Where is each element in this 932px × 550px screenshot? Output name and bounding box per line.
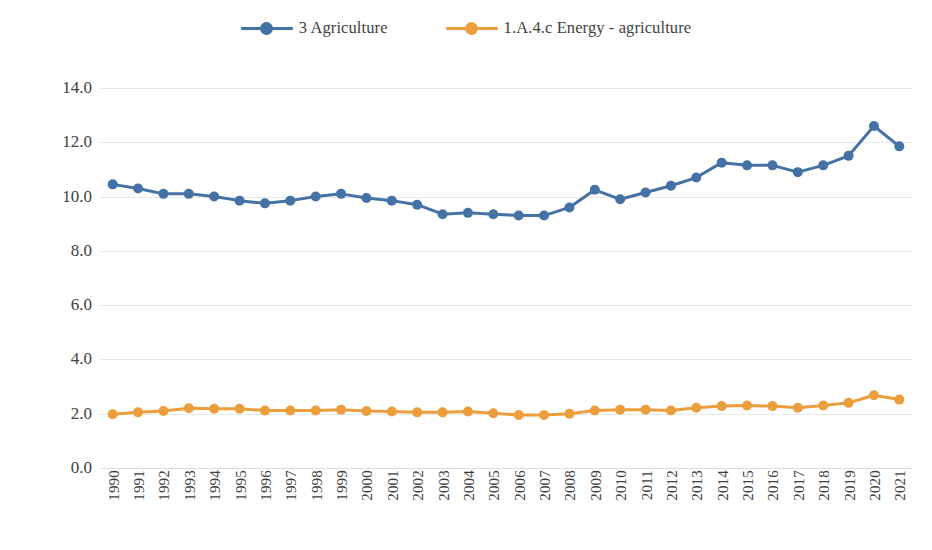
series-energy-agriculture: [108, 390, 905, 420]
x-tick-label: 2005: [486, 470, 503, 501]
data-point[interactable]: [311, 405, 321, 415]
data-point[interactable]: [590, 185, 600, 195]
x-tick-label: 1999: [334, 470, 351, 501]
data-point[interactable]: [539, 211, 549, 221]
x-tick-label: 2019: [842, 470, 859, 501]
data-point[interactable]: [717, 401, 727, 411]
y-tick-label: 14.0: [38, 78, 92, 98]
data-point[interactable]: [869, 121, 879, 131]
series-line: [113, 395, 900, 415]
series-line: [113, 126, 900, 216]
x-tick-label: 2002: [410, 470, 427, 501]
x-tick-label: 2004: [461, 470, 478, 501]
data-point[interactable]: [666, 181, 676, 191]
data-point[interactable]: [336, 189, 346, 199]
x-tick-label: 2016: [765, 470, 782, 501]
data-point[interactable]: [438, 209, 448, 219]
data-point[interactable]: [412, 200, 422, 210]
x-tick-label: 2006: [512, 470, 529, 501]
data-point[interactable]: [818, 401, 828, 411]
data-point[interactable]: [641, 405, 651, 415]
plot-area: [100, 88, 912, 468]
x-tick-label: 2008: [562, 470, 579, 501]
x-tick-label: 2017: [791, 470, 808, 501]
data-point[interactable]: [463, 407, 473, 417]
data-point[interactable]: [463, 208, 473, 218]
x-tick-label: 1996: [258, 470, 275, 501]
y-tick-label: 6.0: [38, 295, 92, 315]
data-point[interactable]: [285, 405, 295, 415]
legend-item-energy-agriculture[interactable]: 1.A.4.c Energy - agriculture: [446, 18, 692, 38]
data-point[interactable]: [742, 160, 752, 170]
data-point[interactable]: [311, 192, 321, 202]
data-point[interactable]: [894, 141, 904, 151]
data-point[interactable]: [133, 183, 143, 193]
data-point[interactable]: [133, 407, 143, 417]
y-tick-label: 12.0: [38, 132, 92, 152]
data-point[interactable]: [869, 390, 879, 400]
data-point[interactable]: [590, 405, 600, 415]
data-point[interactable]: [361, 193, 371, 203]
y-axis: 14.012.010.08.06.04.02.00.0: [30, 88, 92, 468]
data-point[interactable]: [615, 194, 625, 204]
line-chart: 3 Agriculture 1.A.4.c Energy - agricultu…: [0, 0, 932, 550]
data-point[interactable]: [412, 407, 422, 417]
data-point[interactable]: [387, 407, 397, 417]
x-tick-label: 2015: [740, 470, 757, 501]
y-tick-label: 4.0: [38, 349, 92, 369]
data-point[interactable]: [717, 158, 727, 168]
y-tick-label: 10.0: [38, 187, 92, 207]
legend-marker-agriculture: [241, 21, 293, 35]
x-tick-label: 2021: [892, 470, 909, 501]
x-tick-label: 2010: [613, 470, 630, 501]
data-point[interactable]: [894, 395, 904, 405]
data-point[interactable]: [844, 151, 854, 161]
data-point[interactable]: [691, 403, 701, 413]
data-point[interactable]: [742, 401, 752, 411]
data-point[interactable]: [615, 405, 625, 415]
data-point[interactable]: [285, 196, 295, 206]
x-axis: 1990199119921993199419951996199719981999…: [100, 470, 912, 550]
data-point[interactable]: [793, 403, 803, 413]
data-point[interactable]: [844, 398, 854, 408]
data-point[interactable]: [184, 189, 194, 199]
legend-item-agriculture[interactable]: 3 Agriculture: [241, 18, 388, 38]
data-point[interactable]: [767, 401, 777, 411]
data-point[interactable]: [108, 409, 118, 419]
x-tick-label: 1991: [131, 470, 148, 501]
data-point[interactable]: [336, 405, 346, 415]
data-point[interactable]: [209, 192, 219, 202]
data-point[interactable]: [235, 196, 245, 206]
y-tick-label: 2.0: [38, 404, 92, 424]
data-point[interactable]: [488, 209, 498, 219]
x-tick-label: 2011: [639, 470, 656, 500]
data-point[interactable]: [361, 406, 371, 416]
data-point[interactable]: [818, 160, 828, 170]
data-point[interactable]: [260, 405, 270, 415]
data-point[interactable]: [438, 407, 448, 417]
data-point[interactable]: [539, 410, 549, 420]
data-point[interactable]: [641, 188, 651, 198]
data-point[interactable]: [767, 160, 777, 170]
data-point[interactable]: [387, 196, 397, 206]
x-tick-label: 2013: [689, 470, 706, 501]
x-tick-label: 2000: [359, 470, 376, 501]
data-point[interactable]: [158, 406, 168, 416]
data-point[interactable]: [793, 167, 803, 177]
x-tick-label: 2009: [588, 470, 605, 501]
x-tick-label: 1990: [106, 470, 123, 501]
data-point[interactable]: [184, 403, 194, 413]
data-point[interactable]: [666, 405, 676, 415]
data-point[interactable]: [564, 409, 574, 419]
data-point[interactable]: [209, 404, 219, 414]
data-point[interactable]: [514, 410, 524, 420]
x-tick-label: 2020: [867, 470, 884, 501]
data-point[interactable]: [108, 179, 118, 189]
data-point[interactable]: [564, 202, 574, 212]
data-point[interactable]: [691, 173, 701, 183]
data-point[interactable]: [514, 211, 524, 221]
data-point[interactable]: [488, 408, 498, 418]
data-point[interactable]: [235, 404, 245, 414]
data-point[interactable]: [260, 198, 270, 208]
data-point[interactable]: [158, 189, 168, 199]
